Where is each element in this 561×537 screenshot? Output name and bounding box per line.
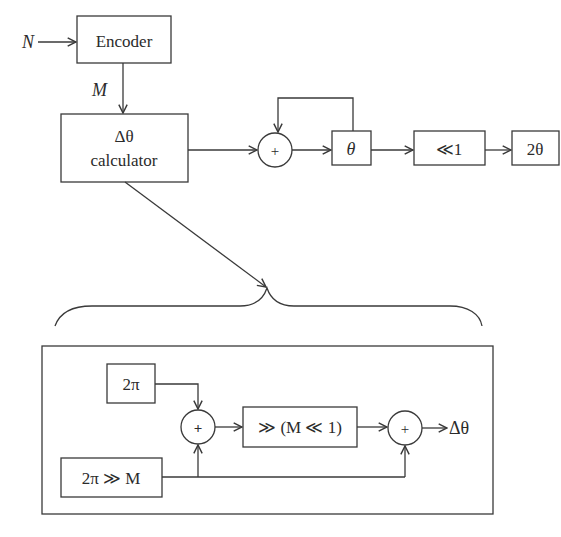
adder-symbol: + <box>271 143 279 159</box>
calculator-label-line2: calculator <box>90 151 157 170</box>
encoder-label: Encoder <box>96 32 153 51</box>
delta-theta-output-label: Δθ <box>449 418 469 438</box>
curly-brace <box>55 288 482 326</box>
feedback-loop-arrow <box>278 98 353 132</box>
expansion-pointer-arrow <box>125 182 266 287</box>
calculator-label-line1: Δθ <box>114 127 133 146</box>
two-theta-label: 2θ <box>527 140 544 159</box>
two-pi-label: 2π <box>122 375 140 394</box>
right-shift-label: ≫ (M ≪ 1) <box>258 418 342 437</box>
adder1-symbol: + <box>194 420 203 436</box>
delta-theta-calculator-block <box>61 114 188 182</box>
theta-label: θ <box>347 139 356 159</box>
input-n-label: N <box>21 32 35 52</box>
two-pi-shift-m-label: 2π ≫ M <box>82 469 141 488</box>
adder2-symbol: + <box>401 421 409 437</box>
encoder-output-m-label: M <box>91 80 108 100</box>
left-shift-label: ≪1 <box>436 140 463 159</box>
diagram-canvas: N Encoder M Δθ calculator + θ ≪1 2θ 2π +… <box>0 0 561 537</box>
